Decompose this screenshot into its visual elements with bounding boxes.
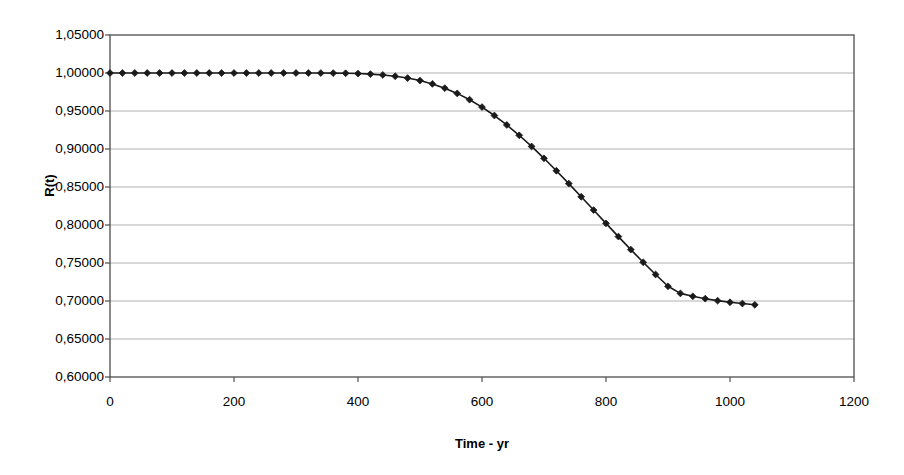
data-point-marker [429, 81, 436, 88]
plot-frame [110, 35, 854, 377]
data-point-marker [342, 70, 349, 77]
data-series [107, 70, 759, 309]
data-point-marker [689, 293, 696, 300]
series-line [110, 73, 755, 305]
data-point-marker [280, 70, 287, 77]
data-point-marker [231, 70, 238, 77]
data-point-marker [131, 70, 138, 77]
data-point-marker [727, 299, 734, 306]
data-point-marker [206, 70, 213, 77]
gridlines [110, 73, 854, 339]
data-point-marker [466, 96, 473, 103]
data-point-marker [751, 301, 758, 308]
y-tick-marks [105, 35, 110, 377]
plot-border [110, 35, 854, 377]
data-point-marker [193, 70, 200, 77]
plot-area [0, 0, 904, 475]
data-point-marker [169, 70, 176, 77]
data-point-marker [317, 70, 324, 77]
data-point-marker [367, 71, 374, 78]
data-point-marker [255, 70, 262, 77]
data-point-marker [454, 90, 461, 97]
data-point-marker [144, 70, 151, 77]
data-point-marker [305, 70, 312, 77]
chart-container: R(t) Time - yr 1,050001,000000,950000,90… [0, 0, 904, 475]
data-point-marker [404, 75, 411, 82]
data-point-marker [107, 70, 114, 77]
data-point-marker [355, 70, 362, 77]
data-point-marker [392, 73, 399, 80]
data-point-marker [268, 70, 275, 77]
data-point-marker [330, 70, 337, 77]
data-point-marker [156, 70, 163, 77]
data-point-marker [714, 297, 721, 304]
data-point-marker [441, 85, 448, 92]
data-point-marker [119, 70, 126, 77]
data-point-marker [677, 290, 684, 297]
x-tick-marks [110, 377, 854, 382]
data-point-marker [243, 70, 250, 77]
data-point-marker [218, 70, 225, 77]
data-point-marker [417, 77, 424, 84]
data-point-marker [293, 70, 300, 77]
data-point-marker [181, 70, 188, 77]
